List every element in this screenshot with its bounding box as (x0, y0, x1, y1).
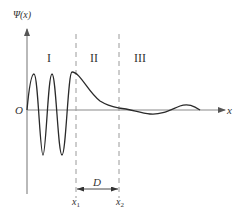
region-label-1: I (47, 51, 51, 65)
region-label-2: II (90, 51, 98, 65)
boundary-label-x2: x2 (115, 196, 124, 209)
origin-label: O (15, 104, 23, 116)
wavefunction-curve (27, 72, 200, 155)
boundary-label-x1: x1 (71, 196, 80, 209)
barrier-width-label: D (92, 176, 101, 188)
wavefunction-tunneling-diagram: Ψ(x) x O I II III D x1 x2 (0, 0, 235, 219)
region-label-3: III (134, 51, 146, 65)
y-axis-label: Ψ(x) (13, 9, 32, 21)
x-axis-label: x (226, 104, 232, 116)
